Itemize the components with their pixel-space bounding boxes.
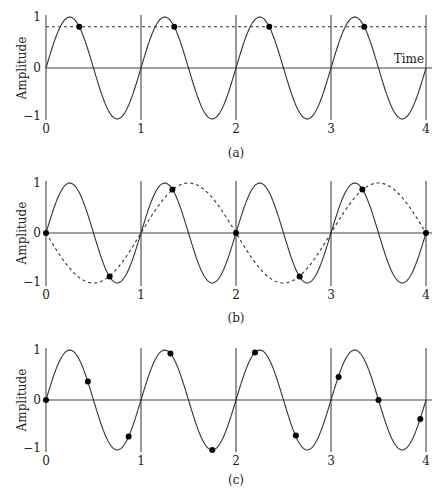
sample-point (171, 24, 177, 30)
y-tick-label: 0 (33, 226, 41, 240)
x-tick-label: 1 (137, 454, 145, 468)
x-tick-label: 2 (232, 122, 240, 136)
y-tick-label: 1 (33, 10, 41, 24)
x-tick-label: 4 (422, 454, 430, 468)
x-tick-label: 4 (422, 122, 430, 136)
sample-point (417, 416, 423, 422)
panel-label: (c) (228, 473, 244, 487)
x-tick-label: 0 (42, 122, 50, 136)
y-tick-label: 0 (33, 61, 41, 75)
sample-point (85, 379, 91, 385)
x-tick-label: 2 (232, 288, 240, 302)
y-axis-label: Amplitude (15, 37, 29, 101)
sample-point (43, 230, 49, 236)
sampling-figure: 0123410−1AmplitudeTime(a)0123410−1Amplit… (0, 0, 445, 490)
sample-point (266, 24, 272, 30)
panel-c: 0123410−1Amplitude(c) (15, 343, 432, 487)
x-tick-label: 3 (327, 122, 335, 136)
x-tick-label: 3 (327, 454, 335, 468)
x-axis-label: Time (394, 52, 424, 66)
panel-a: 0123410−1AmplitudeTime(a) (15, 10, 432, 160)
x-tick-label: 2 (232, 454, 240, 468)
x-tick-label: 4 (422, 288, 430, 302)
sample-point (361, 24, 367, 30)
sample-point (252, 350, 258, 356)
y-tick-label: −1 (23, 109, 41, 123)
x-tick-label: 3 (327, 288, 335, 302)
panel-b: 0123410−1Amplitude(b) (15, 176, 432, 325)
sample-point (169, 187, 175, 193)
sample-point (167, 351, 173, 357)
y-tick-label: −1 (23, 441, 41, 455)
y-axis-label: Amplitude (15, 369, 29, 433)
sample-point (107, 274, 113, 280)
y-tick-label: 1 (33, 176, 41, 190)
sample-point (126, 434, 132, 440)
y-tick-label: 1 (33, 343, 41, 357)
sample-point (209, 447, 215, 453)
x-tick-label: 0 (42, 454, 50, 468)
y-tick-label: 0 (33, 393, 41, 407)
panel-label: (a) (228, 146, 245, 160)
sample-point (359, 187, 365, 193)
sample-point (336, 374, 342, 380)
x-tick-label: 1 (137, 288, 145, 302)
sample-point (297, 274, 303, 280)
sample-point (293, 433, 299, 439)
panel-label: (b) (227, 311, 244, 325)
y-tick-label: −1 (23, 275, 41, 289)
x-tick-label: 1 (137, 122, 145, 136)
x-tick-label: 0 (42, 288, 50, 302)
sample-point (43, 397, 49, 403)
sample-point (76, 24, 82, 30)
y-axis-label: Amplitude (15, 202, 29, 266)
sample-point (233, 230, 239, 236)
sample-point (376, 397, 382, 403)
sample-point (423, 230, 429, 236)
